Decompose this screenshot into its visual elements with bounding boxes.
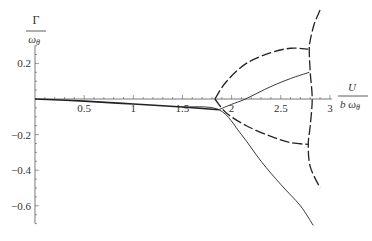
x-axis-label-numerator: U [348,81,357,93]
series-solid-shared [35,99,219,110]
y-tick-label: −0.2 [11,129,31,141]
y-axis-label-denominator: ωθ [28,33,40,47]
y-axis-label-numerator: Γ [33,13,40,27]
y-tick-label: 0.2 [17,57,31,69]
series-group [35,10,320,225]
axis-labels: Γ ωθ U b ωθ [26,13,368,112]
axes: 0.511.522.530.2−0.2−0.4−0.6 [11,46,333,224]
x-tick-label: 0.5 [77,102,91,114]
series-solid-upper-branch [219,72,309,109]
x-tick-label: 3 [327,102,333,114]
series-solid-lower-branch [182,107,313,226]
y-tick-label: −0.4 [11,164,31,176]
y-tick-label: −0.6 [11,200,31,212]
chart-plot: 0.511.522.530.2−0.2−0.4−0.6 Γ ωθ U b ωθ [0,0,372,241]
x-axis-label-denominator: b ωθ [340,98,360,112]
x-tick-label: 2.5 [274,102,288,114]
